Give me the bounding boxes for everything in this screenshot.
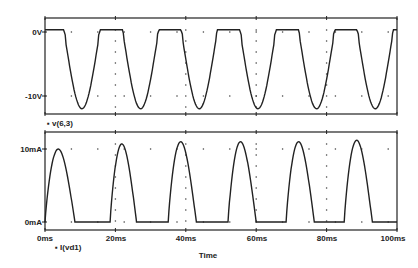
top-grid <box>42 16 397 116</box>
v63-trace <box>45 30 397 109</box>
y-label-0ma: 0mA <box>25 218 43 227</box>
x-tick-20ms: 20ms <box>106 234 127 243</box>
y-label-10ma: 10mA <box>20 145 42 154</box>
x-tick-100ms: 100ms <box>381 234 406 243</box>
chart-canvas: 0V -10V ▪ v(6,3) 10mA 0mA 0ms 20ms 40ms … <box>0 0 418 268</box>
x-axis: 0ms 20ms 40ms 60ms 80ms 100ms ▪ I(vd1) T… <box>37 234 406 260</box>
top-plot: 0V -10V ▪ v(6,3) <box>25 16 397 128</box>
y-label-neg10v: -10V <box>25 92 43 101</box>
ivd1-trace <box>45 140 397 222</box>
x-tick-60ms: 60ms <box>247 234 268 243</box>
x-axis-title: Time <box>199 251 218 260</box>
legend-v63: ▪ v(6,3) <box>47 119 73 128</box>
legend-ivd1: ▪ I(vd1) <box>55 243 82 252</box>
y-label-0v: 0V <box>32 28 42 37</box>
bottom-grid <box>42 130 397 232</box>
bottom-plot: 10mA 0mA <box>20 130 397 232</box>
x-tick-80ms: 80ms <box>317 234 338 243</box>
x-tick-40ms: 40ms <box>176 234 197 243</box>
x-tick-0ms: 0ms <box>37 234 54 243</box>
